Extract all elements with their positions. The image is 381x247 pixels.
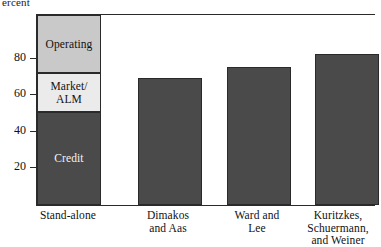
bar-segment-label-credit: Credit <box>54 152 83 165</box>
plot-area: 80 60 40 20 Credit Market/ ALM Operating <box>36 14 375 206</box>
bar-segment-credit[interactable]: Credit <box>37 112 101 205</box>
y-tick-label-80: 80 <box>14 51 26 63</box>
y-tick-label-40: 40 <box>14 124 26 136</box>
bar-segment-label-operating: Operating <box>46 38 93 51</box>
bar-ward-and-lee[interactable] <box>227 67 291 205</box>
bar-dimakos-and-aas[interactable] <box>138 78 202 205</box>
y-tick-60: 60 <box>30 94 37 95</box>
y-axis-title: ercent <box>2 0 30 8</box>
bar-segment-market-alm[interactable]: Market/ ALM <box>37 73 101 112</box>
x-category-label-stand-alone: Stand-alone <box>22 209 114 222</box>
x-category-label-dimakos-and-aas: Dimakos and Aas <box>122 209 214 234</box>
bar-kuritzkes-schuermann-and-weiner[interactable] <box>315 54 379 205</box>
bar-segment-operating[interactable]: Operating <box>37 15 101 73</box>
y-tick-80: 80 <box>30 58 37 59</box>
bar-chart-figure: ercent 80 60 40 20 Credit Market/ ALM Op… <box>0 0 381 247</box>
y-tick-40: 40 <box>30 131 37 132</box>
bar-segment-label-market-alm: Market/ ALM <box>50 80 87 106</box>
y-tick-label-60: 60 <box>14 87 26 99</box>
y-tick-20: 20 <box>30 167 37 168</box>
x-category-label-kuritzkes-schuermann-and-weiner: Kuritzkes, Schuermann, and Weiner <box>292 209 381 247</box>
y-tick-label-20: 20 <box>14 160 26 172</box>
bar-stand-alone[interactable]: Credit Market/ ALM Operating <box>37 15 101 205</box>
x-category-label-ward-and-lee: Ward and Lee <box>211 209 303 234</box>
